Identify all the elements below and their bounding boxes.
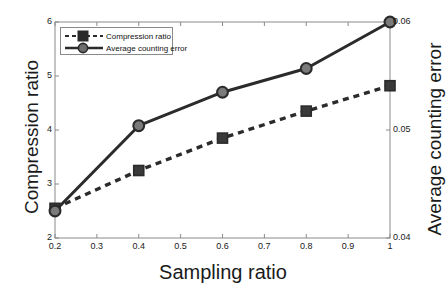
y-tick-label-left: 4: [36, 124, 52, 134]
x-tick-label: 0.5: [170, 241, 192, 251]
legend-label: Compression ratio: [106, 32, 171, 41]
data-point-marker: [50, 206, 61, 217]
series-line-1: [55, 86, 390, 209]
legend-marker-square-dashed-icon: [64, 30, 104, 42]
x-tick-label: 1: [379, 241, 401, 251]
data-point-marker: [217, 87, 228, 98]
x-tick-label: 0.3: [86, 241, 108, 251]
x-tick-label: 0.2: [44, 241, 66, 251]
legend: Compression ratio Average counting error: [60, 27, 173, 55]
legend-item-average-counting-error: Average counting error: [64, 42, 187, 54]
y-tick-label-left: 6: [36, 16, 52, 26]
data-point-marker: [301, 63, 312, 74]
x-tick-label: 0.4: [128, 241, 150, 251]
y-tick-label-left: 2: [36, 232, 52, 242]
data-point-marker: [218, 133, 228, 143]
data-point-marker: [133, 120, 144, 131]
x-tick-label: 0.7: [253, 241, 275, 251]
y-tick-label-right: 0.05: [393, 124, 415, 134]
y-tick-label-left: 5: [36, 70, 52, 80]
legend-item-compression-ratio: Compression ratio: [64, 30, 171, 42]
y-tick-label-left: 3: [36, 178, 52, 188]
legend-label: Average counting error: [106, 44, 187, 53]
data-point-marker: [301, 106, 311, 116]
x-tick-label: 0.9: [337, 241, 359, 251]
x-tick-label: 0.6: [212, 241, 234, 251]
y-tick-label-right: 0.06: [393, 16, 415, 26]
legend-marker-circle-solid-icon: [64, 42, 104, 54]
y-tick-label-right: 0.04: [393, 232, 415, 242]
data-point-marker: [385, 81, 395, 91]
data-point-marker: [134, 166, 144, 176]
x-tick-label: 0.8: [295, 241, 317, 251]
